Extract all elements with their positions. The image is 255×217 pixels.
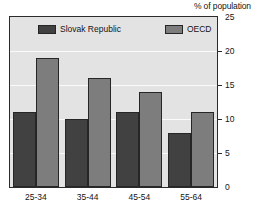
bar-group bbox=[114, 17, 166, 187]
legend-item-slovak-republic: Slovak Republic bbox=[38, 24, 121, 34]
axis-unit-label: % of population bbox=[194, 1, 251, 11]
legend-swatch-icon bbox=[38, 25, 56, 34]
bar bbox=[65, 119, 88, 187]
plot-area bbox=[9, 16, 218, 188]
bar bbox=[168, 133, 191, 187]
x-tick-label: 45-54 bbox=[114, 193, 166, 202]
bar bbox=[88, 78, 111, 187]
y-tick-mark bbox=[218, 51, 222, 52]
x-tick-label: 35-44 bbox=[62, 193, 114, 202]
legend-label: OECD bbox=[187, 24, 212, 34]
bar-group bbox=[10, 17, 62, 187]
y-tick-label: 25 bbox=[225, 13, 234, 22]
y-tick-label: 15 bbox=[225, 81, 234, 90]
bar bbox=[36, 58, 59, 187]
bars-layer bbox=[10, 17, 217, 187]
legend: Slovak Republic OECD bbox=[38, 24, 212, 34]
y-tick-label: 10 bbox=[225, 115, 234, 124]
bar bbox=[191, 112, 214, 187]
y-tick-label: 20 bbox=[225, 47, 234, 56]
bar-group bbox=[62, 17, 114, 187]
bar bbox=[116, 112, 139, 187]
y-tick-mark bbox=[218, 119, 222, 120]
y-tick-mark bbox=[218, 153, 222, 154]
bar-group bbox=[165, 17, 217, 187]
x-tick-label: 25-34 bbox=[10, 193, 62, 202]
y-tick-mark bbox=[218, 85, 222, 86]
legend-swatch-icon bbox=[165, 25, 183, 34]
y-tick-label: 5 bbox=[225, 149, 230, 158]
bar bbox=[13, 112, 36, 187]
legend-label: Slovak Republic bbox=[60, 24, 121, 34]
y-tick-label: 0 bbox=[225, 183, 230, 192]
x-tick-label: 55-64 bbox=[165, 193, 217, 202]
bar bbox=[139, 92, 162, 187]
bar-chart: % of population 0510152025 25-3435-4445-… bbox=[0, 0, 255, 217]
legend-item-oecd: OECD bbox=[165, 24, 212, 34]
